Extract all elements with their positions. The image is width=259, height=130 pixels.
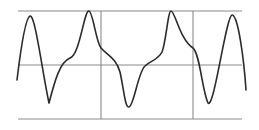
waveform-diagram xyxy=(0,0,259,130)
waveform-curve xyxy=(17,11,246,107)
